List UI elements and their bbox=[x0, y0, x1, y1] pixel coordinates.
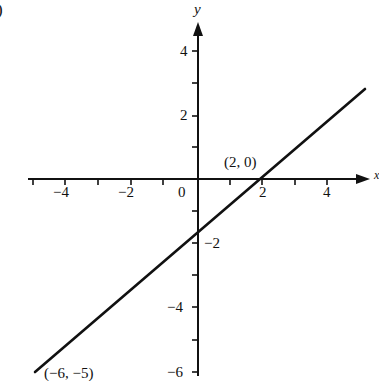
series-line bbox=[35, 89, 365, 372]
y-tick-label: −6 bbox=[167, 365, 183, 380]
x-tick-label: 0 bbox=[178, 185, 186, 200]
x-tick-label: −4 bbox=[53, 185, 69, 200]
x-tick-label: −2 bbox=[118, 185, 134, 200]
panel-label: ) bbox=[0, 2, 3, 17]
point-annotation: (−6, −5) bbox=[44, 366, 93, 381]
x-axis-arrow-icon bbox=[356, 174, 370, 184]
point-annotation: (2, 0) bbox=[224, 155, 257, 170]
y-axis-arrow-icon bbox=[193, 22, 203, 36]
y-tick-label: −2 bbox=[204, 236, 220, 251]
y-tick-label: −4 bbox=[167, 300, 183, 315]
x-axis-label: x bbox=[374, 168, 379, 183]
x-tick-label: 2 bbox=[259, 185, 267, 200]
y-axis-label: y bbox=[194, 2, 201, 17]
x-tick-label: 4 bbox=[323, 185, 331, 200]
y-tick-label: 4 bbox=[180, 44, 188, 59]
y-tick-label: 2 bbox=[180, 108, 188, 123]
